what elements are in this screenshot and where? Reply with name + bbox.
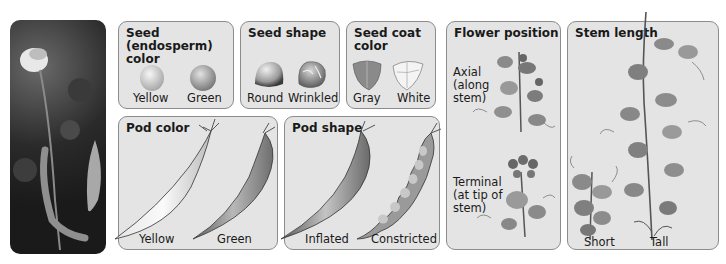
panel-pod-color: Pod color Yellow Green [118,116,278,250]
trait-label: Inflated [305,233,349,246]
round-seed-icon [255,62,283,87]
tall-plant-icon [600,12,706,240]
short-plant-icon [570,156,617,240]
yellow-seed-icon [140,65,164,91]
pod-shape [87,140,101,211]
trait-label: Yellow [139,233,174,246]
panel-seed-color: Seed (endosperm) color Yellow Green [118,21,234,109]
wrinkled-seed-icon [299,62,326,88]
panel-pod-shape: Pod shape Inflated Constricted [284,116,440,250]
pea-plant-illustration [10,20,106,254]
trait-label: Tall [650,236,669,249]
panel-flower-position: Flower position Axial (along stem) Termi… [446,21,561,250]
terminal-flower-plant-icon [477,155,555,237]
pod-shape-images [285,117,441,251]
pea-plant-photo [10,20,106,254]
panel-seed-shape: Seed shape Round Wrinkled [240,21,340,109]
stem-length-images [568,22,720,251]
trait-label: Green [187,92,222,105]
trait-label: Round [247,92,283,105]
flower-position-images [447,22,562,251]
trait-label: Constricted [371,233,437,246]
pod-shape [44,150,85,238]
yellow-pod-icon [115,131,211,239]
axial-flower-plant-icon [473,52,555,132]
trait-label: Gray [353,92,381,105]
trait-label: Wrinkled [288,92,338,105]
panel-stem-length: Stem length Short Tall [567,21,719,250]
trait-label: White [397,92,430,105]
trait-label: Green [217,233,252,246]
trait-label: Short [584,236,615,249]
green-seed-icon [190,65,216,91]
pod-color-images [119,117,279,251]
panel-seed-coat-color: Seed coat color Gray White [346,21,436,109]
trait-label: Yellow [133,92,168,105]
white-seed-coat-icon [393,61,423,90]
inflated-pod-icon [281,131,370,239]
